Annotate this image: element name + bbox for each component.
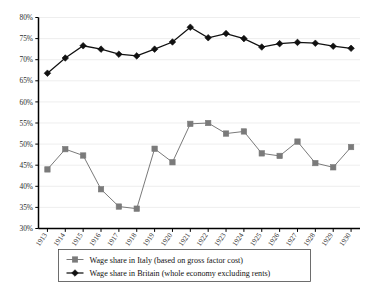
square-marker [277,153,282,158]
x-axis-tick-label: 1918 [124,231,139,248]
square-marker [63,146,68,151]
y-axis-group [35,18,38,229]
diamond-marker [116,51,123,58]
x-axis-tick-label: 1926 [266,231,281,248]
square-marker [331,165,336,170]
legend-entry-label: Wage share in Italy (based on gross fact… [90,256,244,265]
square-marker [241,129,246,134]
series-italy [45,120,354,211]
y-axis-tick-label: 30% [19,224,33,233]
diamond-marker [241,35,248,42]
chart-canvas: 30%35%40%45%50%55%60%65%70%75%80% 191319… [0,0,369,291]
diamond-marker [294,39,301,46]
x-axis-tick-label: 1924 [231,231,246,248]
legend-entry-label: Wage share in Britain (whole economy exc… [90,269,271,278]
y-axis-tick-label: 80% [19,13,33,22]
diamond-marker [258,44,265,51]
x-axis-tick-label: 1916 [88,231,103,248]
y-axis-tick-label: 75% [19,34,33,43]
chart-legend: Wage share in Italy (based on gross fact… [59,250,311,282]
diamond-marker [205,34,212,41]
x-axis-tick-label: 1921 [177,231,192,248]
x-axis-tick-labels: 1913191419151916191719181919192019211922… [34,231,353,248]
x-axis-tick-label: 1930 [338,231,353,248]
x-axis-tick-label: 1927 [284,231,299,248]
square-marker [134,206,139,211]
x-axis-tick-label: 1913 [34,231,49,248]
wage-share-line-chart: 30%35%40%45%50%55%60%65%70%75%80% 191319… [0,0,369,291]
y-axis-tick-label: 65% [19,76,33,85]
x-axis-tick-label: 1914 [52,231,67,248]
square-marker [45,167,50,172]
diamond-marker [312,40,319,47]
square-marker [205,120,210,125]
diamond-marker [330,43,337,50]
square-marker [313,160,318,165]
y-axis-tick-label: 35% [19,203,33,212]
diamond-marker [98,46,105,53]
square-marker [80,153,85,158]
diamond-marker [223,30,230,37]
x-axis-tick-label: 1923 [213,231,228,248]
diamond-marker [276,40,283,47]
y-axis-tick-labels: 30%35%40%45%50%55%60%65%70%75%80% [19,13,33,233]
diamond-marker [151,46,158,53]
y-axis-tick-label: 45% [19,161,33,170]
series-line [47,27,351,73]
y-axis-tick-label: 40% [19,182,33,191]
square-marker [223,131,228,136]
diamond-marker [348,45,355,52]
y-axis-tick-label: 60% [19,98,33,107]
y-axis-tick-label: 70% [19,55,33,64]
y-axis-tick-label: 50% [19,140,33,149]
square-marker [116,204,121,209]
square-marker [170,160,175,165]
x-axis-group [39,229,361,232]
square-marker [295,139,300,144]
square-marker [348,144,353,149]
x-axis-tick-label: 1925 [249,231,264,248]
x-axis-tick-label: 1915 [70,231,85,248]
series-britain [44,24,354,77]
square-marker [188,121,193,126]
square-marker [98,187,103,192]
x-axis-tick-label: 1920 [159,231,174,248]
x-axis-tick-label: 1929 [320,231,335,248]
diamond-marker [133,53,140,60]
x-axis-tick-label: 1919 [141,231,156,248]
y-axis-tick-label: 55% [19,119,33,128]
x-axis-tick-label: 1917 [106,231,121,248]
square-marker [152,146,157,151]
square-marker [72,257,77,262]
x-axis-tick-label: 1928 [302,231,317,248]
x-axis-tick-label: 1922 [195,231,210,248]
series-line [47,123,351,209]
square-marker [259,151,264,156]
